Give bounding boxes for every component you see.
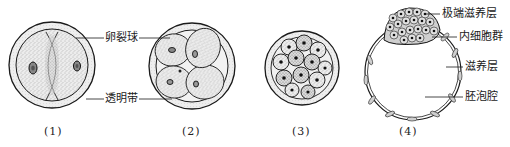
caption-panel-1: (1) — [44, 126, 63, 138]
caption-panel-3: (3) — [292, 126, 311, 138]
label-blastocoel: 胚泡腔 — [464, 91, 499, 103]
label-zona-pellucida: 透明带 — [104, 93, 139, 105]
label-polar-trophoblast: 极端滋养层 — [441, 8, 498, 20]
embryo-development-figure: 卵裂球 透明带 极端滋养层 内细胞群 滋养层 胚泡腔 (1) (2) (3) (… — [0, 0, 510, 147]
panel-3-morula — [265, 31, 339, 105]
label-inner-cell-mass: 内细胞群 — [458, 31, 504, 43]
label-trophoblast: 滋养层 — [464, 61, 499, 73]
label-blastomere: 卵裂球 — [104, 32, 139, 44]
caption-panel-4: (4) — [399, 126, 418, 138]
figure-canvas — [0, 0, 510, 147]
panel-1-two-cell — [9, 22, 95, 108]
caption-panel-2: (2) — [182, 126, 201, 138]
panel-4-blastocyst — [364, 8, 462, 121]
panel-2-four-cell — [149, 23, 235, 109]
